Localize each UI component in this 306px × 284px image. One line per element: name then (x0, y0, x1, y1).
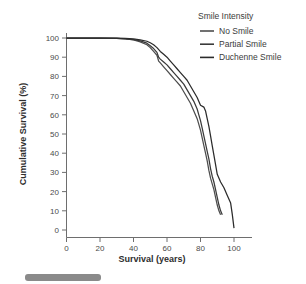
y-tick-label: 60 (50, 111, 59, 120)
x-tick-label: 0 (64, 244, 69, 253)
y-tick-label: 80 (50, 72, 59, 81)
y-tick-label: 90 (50, 53, 59, 62)
x-tick-label: 100 (227, 244, 241, 253)
legend-item-label: Partial Smile (219, 39, 267, 49)
y-axis-title: Cumulative Survival (%) (18, 83, 28, 186)
legend-item-label: No Smile (219, 26, 254, 36)
legend-item-label: Duchenne Smile (219, 52, 282, 62)
y-tick-label: 0 (55, 226, 60, 235)
y-tick-label: 100 (46, 34, 60, 43)
x-tick-label: 60 (163, 244, 172, 253)
legend-title: Smile Intensity (198, 11, 254, 21)
chart-canvas: 0102030405060708090100 020406080100 Surv… (0, 0, 306, 284)
y-tick-label: 10 (50, 207, 59, 216)
x-tick-label: 40 (129, 244, 138, 253)
x-axis-title: Survival (years) (118, 254, 185, 264)
y-tick-label: 30 (50, 168, 59, 177)
y-tick-label: 50 (50, 130, 59, 139)
y-tick-label: 40 (50, 149, 59, 158)
x-tick-label: 80 (196, 244, 205, 253)
y-tick-label: 70 (50, 92, 59, 101)
survival-curve-figure: 0102030405060708090100 020406080100 Surv… (0, 0, 306, 284)
caption-placeholder-bar (25, 274, 101, 281)
y-tick-label: 20 (50, 188, 59, 197)
x-tick-label: 20 (96, 244, 105, 253)
